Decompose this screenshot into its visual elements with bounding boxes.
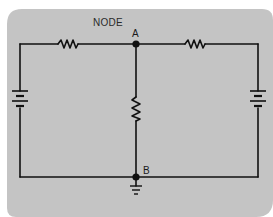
node-a-dot [132,40,139,47]
node-title-label: NODE [93,17,123,28]
node-b-label: B [143,165,150,176]
node-b-dot [132,173,139,180]
node-a-label: A [132,28,139,39]
circuit-diagram: NODE A B [0,0,273,217]
